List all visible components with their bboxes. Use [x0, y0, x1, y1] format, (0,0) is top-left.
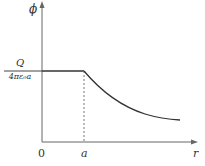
potential-graph [0, 0, 205, 166]
x-tick-a-label: a [81, 148, 88, 159]
y-tick-denominator: 4πε₀a [2, 72, 38, 81]
y-axis-arrow-icon [40, 1, 45, 8]
x-axis-label: r [193, 148, 198, 159]
origin-label: 0 [38, 148, 45, 159]
y-axis-label: ϕ [29, 3, 37, 15]
x-axis-arrow-icon [191, 140, 198, 145]
decay-curve [84, 71, 180, 120]
y-tick-numerator: Q [2, 57, 38, 68]
y-tick-label: Q 4πε₀a [2, 57, 38, 81]
